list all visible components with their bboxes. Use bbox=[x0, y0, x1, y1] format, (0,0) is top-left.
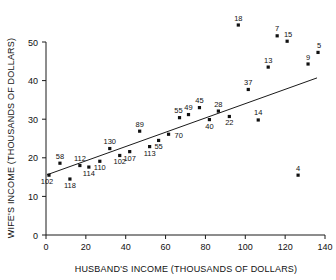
x-tick-label: 0 bbox=[43, 242, 48, 252]
point-label: 45 bbox=[195, 96, 203, 105]
x-tick-label: 80 bbox=[200, 242, 210, 252]
x-axis-title: HUSBAND'S INCOME (THOUSANDS OF DOLLARS) bbox=[75, 264, 298, 274]
x-tick-label: 60 bbox=[161, 242, 171, 252]
scatter-plot-figure: 02040608010012014001020304050 1025811811… bbox=[0, 0, 336, 280]
data-point bbox=[187, 113, 190, 116]
y-tick-label: 30 bbox=[28, 115, 38, 125]
point-label: 70 bbox=[175, 131, 183, 140]
point-label: 49 bbox=[184, 103, 192, 112]
point-label: 55 bbox=[154, 142, 162, 151]
point-label: 13 bbox=[264, 56, 272, 65]
plot-canvas: 02040608010012014001020304050 1025811811… bbox=[0, 0, 336, 280]
point-label: 7 bbox=[275, 24, 279, 33]
point-label: 4 bbox=[296, 164, 300, 173]
point-label: 9 bbox=[306, 53, 310, 62]
y-tick-label: 10 bbox=[28, 192, 38, 202]
data-points-group bbox=[47, 23, 319, 180]
data-point bbox=[138, 130, 141, 133]
y-tick-label: 50 bbox=[28, 38, 38, 48]
point-label: 55 bbox=[174, 106, 182, 115]
ticks-group: 02040608010012014001020304050 bbox=[28, 38, 333, 253]
data-point bbox=[267, 65, 270, 68]
point-labels-group: 1025811811211411013010210789113557055494… bbox=[41, 14, 321, 191]
data-point bbox=[108, 147, 111, 150]
point-label: 18 bbox=[234, 14, 242, 23]
data-point bbox=[316, 51, 319, 54]
y-axis-title: WIFE'S INCOME (THOUSANDS OF DOLLARS) bbox=[6, 38, 16, 238]
data-point bbox=[237, 23, 240, 26]
point-label: 102 bbox=[41, 177, 54, 186]
x-tick-label: 140 bbox=[317, 242, 332, 252]
point-label: 14 bbox=[254, 108, 262, 117]
data-point bbox=[217, 109, 220, 112]
data-point bbox=[178, 116, 181, 119]
point-label: 40 bbox=[205, 122, 213, 131]
point-label: 22 bbox=[225, 118, 233, 127]
point-label: 37 bbox=[244, 78, 252, 87]
data-point bbox=[78, 164, 81, 167]
point-label: 118 bbox=[64, 181, 76, 190]
point-label: 28 bbox=[214, 100, 222, 109]
regression-line bbox=[47, 78, 317, 175]
point-label: 130 bbox=[104, 137, 117, 146]
point-label: 107 bbox=[123, 154, 136, 163]
point-label: 110 bbox=[94, 163, 106, 172]
x-tick-label: 120 bbox=[278, 242, 293, 252]
point-label: 15 bbox=[284, 30, 292, 39]
data-point bbox=[286, 40, 289, 43]
point-label: 112 bbox=[74, 154, 86, 163]
data-point bbox=[198, 106, 201, 109]
data-point bbox=[306, 62, 309, 65]
data-point bbox=[257, 118, 260, 121]
data-point bbox=[167, 133, 170, 136]
point-label: 5 bbox=[317, 41, 321, 50]
data-point bbox=[296, 174, 299, 177]
data-point bbox=[276, 34, 279, 37]
y-tick-label: 40 bbox=[28, 76, 38, 86]
point-label: 89 bbox=[135, 120, 143, 129]
x-tick-label: 100 bbox=[238, 242, 253, 252]
regression-line-segment bbox=[47, 78, 317, 175]
y-tick-label: 20 bbox=[28, 153, 38, 163]
data-point bbox=[247, 88, 250, 91]
data-point bbox=[58, 162, 61, 165]
axes-group bbox=[46, 42, 325, 235]
x-tick-label: 40 bbox=[121, 242, 131, 252]
y-tick-label: 0 bbox=[33, 231, 38, 241]
point-label: 58 bbox=[56, 152, 64, 161]
x-tick-label: 20 bbox=[81, 242, 91, 252]
